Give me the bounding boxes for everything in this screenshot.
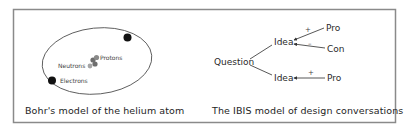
- neutron-icon: [94, 55, 99, 60]
- neutrons-label: Neutrons: [58, 62, 85, 69]
- ibis-caption: The IBIS model of design conversations: [211, 105, 403, 116]
- protons-label: Protons: [100, 54, 122, 61]
- plus-sign-bottom: +: [308, 69, 314, 77]
- question-node: Question: [214, 57, 254, 67]
- proton-icon: [92, 61, 97, 66]
- figure: Protons Neutrons Electrons Bohr's model …: [0, 0, 409, 138]
- idea-node-top: Idea: [274, 37, 293, 47]
- electron-icon: [48, 77, 56, 85]
- neutron-icon: [88, 64, 93, 69]
- electrons-label: Electrons: [60, 77, 88, 84]
- plus-sign-top: +: [305, 26, 311, 34]
- pro-node-top: Pro: [326, 23, 341, 33]
- electron-icon: [124, 34, 132, 42]
- minus-sign: –: [308, 40, 312, 48]
- figure-canvas: Protons Neutrons Electrons Bohr's model …: [0, 0, 409, 138]
- idea-node-bottom: Idea: [274, 73, 293, 83]
- bohr-caption: Bohr's model of the helium atom: [25, 105, 184, 116]
- con-node: Con: [327, 44, 345, 54]
- pro-node-bottom: Pro: [327, 73, 342, 83]
